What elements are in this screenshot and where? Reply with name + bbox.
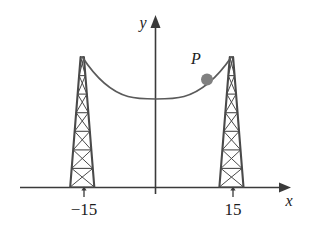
figure-canvas: P y x −15 15: [0, 0, 314, 227]
axes-group: [20, 15, 291, 197]
catenary-bridge-figure: P y x −15 15: [0, 0, 314, 227]
x-axis-arrowhead: [279, 183, 291, 193]
x-tick-label-minus-15: −15: [71, 200, 98, 219]
point-p-marker: [201, 74, 213, 86]
tower-right: [219, 57, 243, 187]
x-tick-label-15: 15: [225, 200, 242, 219]
point-p-label: P: [190, 50, 201, 67]
tower-right-struts: [219, 57, 243, 187]
tower-right-cross-bracing: [219, 57, 243, 187]
x-axis-label: x: [284, 192, 292, 209]
y-axis-arrowhead: [151, 15, 161, 28]
tower-left-cross-bracing: [70, 57, 94, 187]
tower-left: [70, 57, 94, 187]
tower-left-struts: [70, 57, 94, 187]
y-axis-label: y: [137, 14, 147, 32]
